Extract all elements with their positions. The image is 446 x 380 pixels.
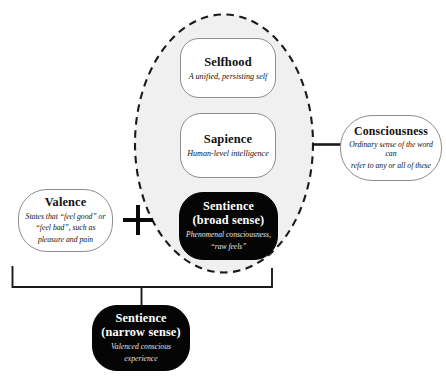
- plus-operator-icon: [123, 205, 153, 235]
- node-sentience-narrow-subtitle-line2: experience: [124, 355, 157, 364]
- node-sentience-narrow-title-line2: (narrow sense): [101, 326, 180, 340]
- node-valence-subtitle-line2: “feel bad”, such as: [36, 224, 96, 233]
- node-sapience-subtitle: Human-level intelligence: [187, 149, 269, 158]
- node-sentience-narrow-title-line1: Sentience: [115, 312, 166, 326]
- node-consciousness-subtitle-line2: refer to any or all of these: [351, 162, 431, 171]
- node-selfhood: Selfhood A unified, persisting self: [180, 38, 276, 98]
- plus-operator-vertical-bar: [136, 205, 140, 235]
- node-valence-subtitle-line1: States that “feel good” or: [26, 213, 106, 222]
- node-sentience-broad: Sentience (broad sense) Phenomenal consc…: [179, 192, 278, 260]
- node-sapience-title: Sapience: [204, 132, 252, 146]
- node-selfhood-subtitle: A unified, persisting self: [189, 72, 268, 81]
- node-consciousness-title: Consciousness: [354, 125, 428, 138]
- node-valence-title: Valence: [45, 196, 87, 210]
- node-valence-subtitle-line3: pleasure and pain: [38, 236, 93, 245]
- node-valence: Valence States that “feel good” or “feel…: [18, 189, 113, 252]
- diagram-canvas: Selfhood A unified, persisting self Sapi…: [0, 0, 446, 380]
- node-consciousness-subtitle-line1: Ordinary sense of the word can: [346, 141, 436, 159]
- node-consciousness: Consciousness Ordinary sense of the word…: [340, 115, 442, 181]
- node-sentience-narrow-subtitle-line1: Valenced conscious: [111, 343, 171, 352]
- node-sapience: Sapience Human-level intelligence: [180, 113, 276, 178]
- node-sentience-broad-title-line1: Sentience: [203, 200, 254, 214]
- node-sentience-narrow: Sentience (narrow sense) Valenced consci…: [92, 305, 190, 371]
- node-sentience-broad-title-line2: (broad sense): [193, 214, 265, 228]
- node-selfhood-title: Selfhood: [204, 55, 252, 69]
- node-sentience-broad-subtitle-line2: “raw feels”: [210, 243, 246, 252]
- node-sentience-broad-subtitle-line1: Phenomenal consciousness,: [186, 231, 271, 240]
